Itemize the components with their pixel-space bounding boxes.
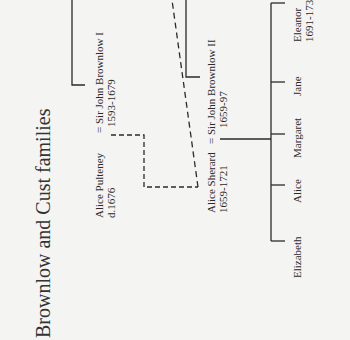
diagram-title: Brownlow and Cust families — [33, 109, 53, 338]
pulteney-dashed-link — [111, 135, 198, 187]
alice-pulteney-name: Alice Pulteney — [94, 153, 105, 218]
child-elizabeth: Elizabeth — [292, 236, 303, 278]
sherard-diagonal-dashed-link — [172, 0, 198, 187]
child-eleanor-name: Eleanor — [292, 8, 303, 42]
brownlow-ii-lineage-line — [186, 0, 200, 77]
john-brownlow-i-name: = Sir John Brownlow I — [94, 32, 105, 133]
alice-pulteney-dates: d.1676 — [106, 188, 117, 218]
john-brownlow-ii-name: = Sir John Brownlow II — [206, 39, 217, 144]
john-brownlow-ii-dates: 1659-97 — [218, 91, 229, 128]
alice-sherard-name: Alice Sherard — [206, 152, 217, 213]
john-brownlow-i-dates: 1593-1679 — [106, 79, 117, 127]
alice-sherard-dates: 1659-1721 — [218, 165, 229, 213]
family-tree-diagram: Brownlow and Cust families Alice Pultene… — [0, 0, 350, 340]
brownlow-i-lineage-line — [72, 0, 85, 85]
child-alice: Alice — [292, 179, 303, 203]
child-margaret: Margaret — [292, 118, 303, 158]
child-jane: Jane — [292, 76, 303, 96]
child-eleanor-dates: 1691-173 — [304, 0, 315, 42]
